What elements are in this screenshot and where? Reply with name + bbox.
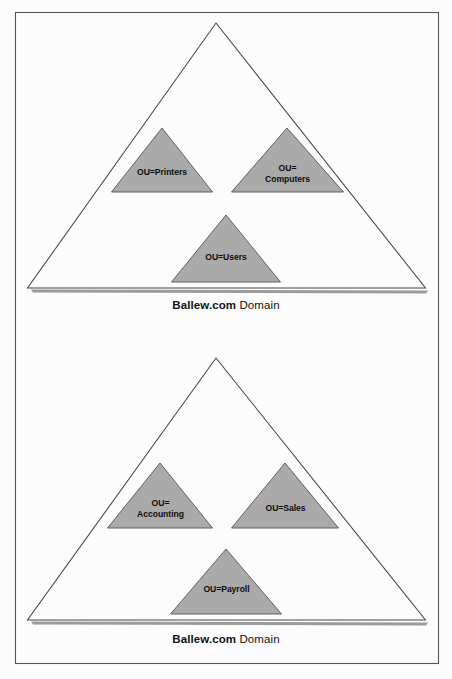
ou-printers-triangle — [112, 128, 213, 192]
ou-printers-line-1: OU=Printers — [112, 167, 212, 178]
ou-accounting-line-2: Accounting — [108, 509, 213, 520]
top-domain-suffix: Domain — [236, 299, 280, 311]
ou-computers-label: OU= Computers — [232, 163, 343, 184]
ou-users-label: OU=Users — [172, 252, 280, 263]
bottom-domain-suffix: Domain — [236, 633, 280, 645]
top-domain-name: Ballew.com — [172, 299, 236, 311]
ou-payroll-label: OU=Payroll — [171, 584, 282, 595]
figure-page: OU=Printers OU= Computers OU=Users Balle… — [0, 0, 452, 679]
ou-accounting-line-1: OU= — [108, 498, 213, 509]
ou-sales-label: OU=Sales — [232, 503, 339, 514]
ou-users-line-1: OU=Users — [172, 252, 280, 263]
diagram-canvas — [0, 0, 452, 679]
ou-accounting-label: OU= Accounting — [108, 498, 213, 519]
bottom-domain-caption: Ballew.com Domain — [0, 633, 452, 645]
ou-sales-line-1: OU=Sales — [232, 503, 339, 514]
bottom-domain-base-shadow — [31, 622, 428, 626]
top-domain-caption: Ballew.com Domain — [0, 299, 452, 311]
ou-computers-line-2: Computers — [232, 174, 343, 185]
ou-printers-label: OU=Printers — [112, 167, 212, 178]
ou-sales-triangle — [232, 463, 339, 528]
top-domain-base-shadow — [31, 290, 428, 294]
ou-users-triangle — [172, 215, 281, 282]
ou-computers-line-1: OU= — [232, 163, 343, 174]
bottom-domain-name: Ballew.com — [172, 633, 236, 645]
ou-payroll-line-1: OU=Payroll — [171, 584, 282, 595]
ou-payroll-triangle — [171, 549, 282, 614]
